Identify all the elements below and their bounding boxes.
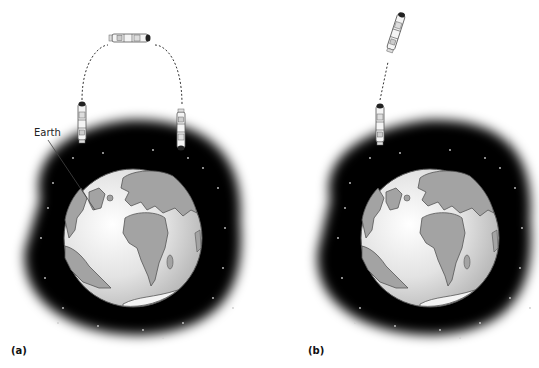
rocket-launch (376, 104, 384, 146)
panel-b (317, 11, 530, 339)
rocket-escape (386, 11, 406, 53)
trajectory-arc (82, 45, 182, 105)
rocket-apex (109, 34, 151, 42)
panel-a (25, 34, 241, 339)
earth-globe (361, 169, 499, 307)
earth-label: Earth (34, 127, 61, 138)
rocket-return (177, 109, 185, 151)
rocket-launch (78, 102, 86, 144)
trajectory-straight (380, 62, 388, 100)
panel-a-label: (a) (11, 345, 27, 356)
figure-canvas (0, 0, 539, 368)
panel-b-label: (b) (308, 345, 324, 356)
earth-globe (64, 169, 202, 307)
